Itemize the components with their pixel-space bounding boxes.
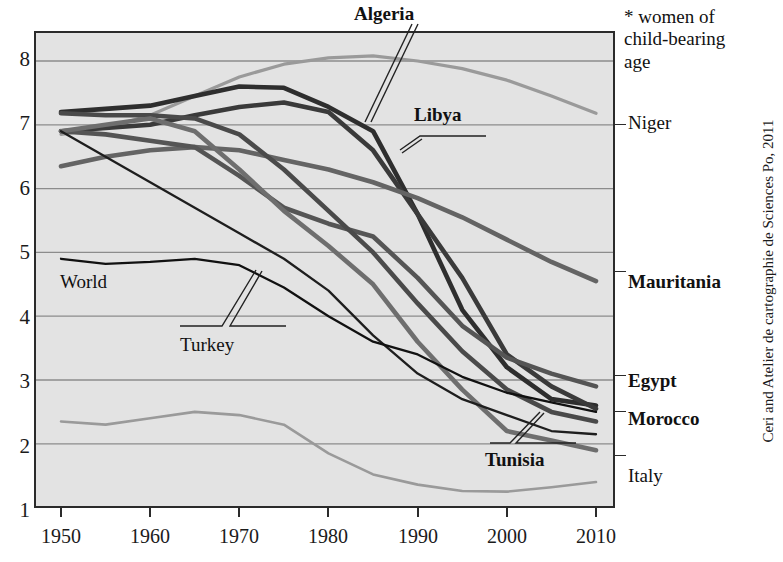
series-label-algeria: Algeria [354,4,414,23]
y-tick-3: 3 [6,371,30,392]
series-line-turkey [61,131,596,434]
y-tick-7: 7 [6,113,30,134]
x-tickmark-1960 [149,508,151,517]
x-tick-1980: 1980 [288,526,368,546]
leader-niger [615,124,626,125]
series-line-mauritania [61,147,596,281]
y-tick-8: 8 [6,49,30,70]
credit-text: Ceri and Atelier de cartographie de Scie… [760,119,777,442]
leader-line-libya [398,130,488,154]
x-tick-1970: 1970 [199,526,279,546]
x-tickmark-1980 [327,508,329,517]
y-axis-labels: 8 7 6 5 4 3 2 1 [0,0,30,562]
series-label-egypt: Egypt [628,371,677,391]
footnote-line-2: child-bearing [624,28,725,50]
y-tick-6: 6 [6,178,30,199]
footnote-line-1: * women of [624,6,725,28]
footnote: * women of child-bearing age [624,6,725,73]
leader-morocco [615,411,626,412]
series-label-turkey: Turkey [180,335,234,354]
series-label-world: World [60,272,107,291]
credit-text-container: Ceri and Atelier de cartographie de Scie… [755,0,781,562]
x-axis-labels: 1950 1960 1970 1980 1990 2000 2010 [0,521,783,553]
x-tick-1990: 1990 [378,526,458,546]
leader-line-turkey [178,268,288,334]
series-label-morocco: Morocco [628,409,699,429]
x-tick-2010: 2010 [556,526,636,546]
leader-italy [615,455,626,456]
leader-mauritania [615,271,626,272]
x-tick-1950: 1950 [21,526,101,546]
y-tick-5: 5 [6,242,30,263]
y-tick-1: 1 [6,500,30,521]
y-tick-4: 4 [6,307,30,328]
leader-line-algeria [352,22,422,127]
series-label-tunisia: Tunisia [485,450,545,469]
x-tickmark-2000 [506,508,508,517]
chart-page: 8 7 6 5 4 3 2 1 1950 1960 1970 1980 1990… [0,0,783,562]
series-label-italy: Italy [628,466,663,486]
footnote-line-3: age [624,51,725,73]
series-label-niger: Niger [628,113,671,133]
x-tickmark-1950 [60,508,62,517]
series-line-niger [61,56,596,134]
series-line-world [61,259,596,412]
x-tick-2000: 2000 [467,526,547,546]
y-tick-2: 2 [6,436,30,457]
series-label-mauritania: Mauritania [628,272,721,292]
series-label-libya: Libya [414,105,462,124]
leader-egypt [615,375,626,376]
x-tick-1960: 1960 [110,526,190,546]
leader-line-tunisia [488,410,578,448]
x-tickmark-1990 [417,508,419,517]
x-tickmark-2010 [595,508,597,517]
x-tickmark-1970 [238,508,240,517]
